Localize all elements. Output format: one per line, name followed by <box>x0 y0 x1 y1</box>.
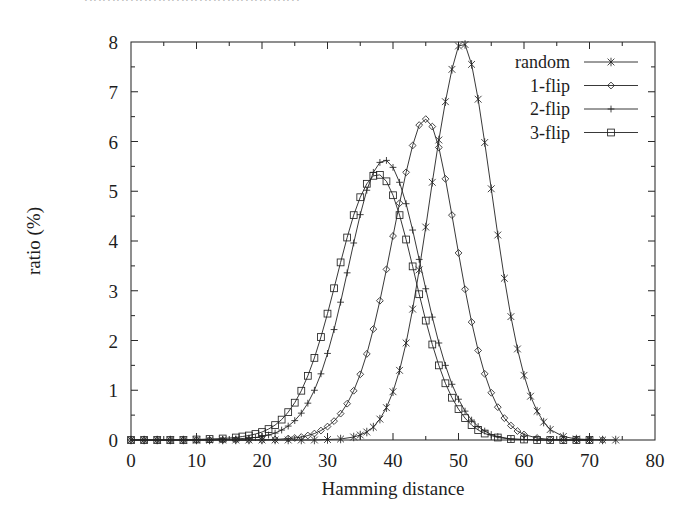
plot-border <box>131 42 655 440</box>
marker-star <box>481 138 488 147</box>
marker-star <box>449 65 456 74</box>
marker-plus <box>442 362 449 369</box>
chart-ticks <box>131 42 655 440</box>
marker-plus <box>357 211 364 218</box>
marker-star <box>422 223 429 232</box>
marker-plus <box>462 408 469 415</box>
x-tick-label: 40 <box>384 450 403 471</box>
series-line-2-flip <box>131 160 590 440</box>
marker-star <box>363 428 370 437</box>
figure-root: ⋅⋅⋅⋅⋅⋅⋅⋅⋅⋅⋅⋅⋅⋅⋅⋅⋅⋅⋅⋅⋅⋅⋅⋅⋅⋅⋅⋅⋅⋅⋅⋅⋅⋅⋅⋅⋅⋅⋅⋅… <box>0 0 673 516</box>
marker-star <box>494 231 501 240</box>
x-tick-label: 70 <box>580 450 599 471</box>
marker-plus <box>409 227 416 234</box>
marker-star <box>403 339 410 348</box>
marker-plus <box>608 106 615 113</box>
chart-legend: random1-flip2-flip3-flip <box>515 52 638 143</box>
marker-star <box>429 178 436 187</box>
marker-star <box>383 403 390 412</box>
marker-plus <box>272 430 279 437</box>
marker-plus <box>435 340 442 347</box>
legend-label-random: random <box>515 52 570 72</box>
legend-label-1-flip: 1-flip <box>530 76 570 96</box>
y-tick-label: 6 <box>109 132 119 153</box>
y-tick-label: 7 <box>109 82 119 103</box>
y-tick-label: 0 <box>109 430 119 451</box>
marker-star <box>468 60 475 68</box>
marker-star <box>377 415 384 424</box>
marker-star <box>488 185 495 194</box>
marker-plus <box>278 427 285 434</box>
x-tick-label: 60 <box>515 450 534 471</box>
chart-svg: 01020304050607080012345678 random1-flip2… <box>0 0 673 516</box>
marker-plus <box>429 314 436 321</box>
y-tick-label: 3 <box>109 281 119 302</box>
y-tick-label: 8 <box>109 32 119 53</box>
marker-star <box>521 371 528 380</box>
x-tick-label: 0 <box>126 450 136 471</box>
marker-plus <box>324 350 331 357</box>
marker-plus <box>344 269 351 276</box>
marker-star <box>357 431 364 440</box>
marker-star <box>527 392 534 401</box>
marker-star <box>370 423 377 432</box>
marker-plus <box>331 326 338 333</box>
marker-plus <box>318 370 325 377</box>
x-tick-label: 50 <box>449 450 468 471</box>
x-tick-label: 10 <box>187 450 206 471</box>
x-tick-label: 30 <box>318 450 337 471</box>
legend-label-2-flip: 2-flip <box>530 99 570 119</box>
series-line-1-flip <box>131 119 603 440</box>
marker-star <box>390 387 397 396</box>
marker-plus <box>403 200 410 207</box>
chart-frame <box>131 42 655 440</box>
marker-plus <box>422 285 429 292</box>
y-tick-label: 4 <box>109 231 119 252</box>
marker-plus <box>337 299 344 306</box>
marker-star <box>514 345 521 354</box>
marker-star <box>455 42 462 51</box>
marker-plus <box>455 396 462 403</box>
x-tick-label: 80 <box>646 450 665 471</box>
marker-star <box>540 418 547 427</box>
chart-plot-area: 01020304050607080012345678 random1-flip2… <box>0 0 673 516</box>
marker-star <box>396 366 403 375</box>
marker-plus <box>311 387 318 394</box>
marker-plus <box>449 381 456 388</box>
marker-star <box>547 425 554 434</box>
y-tick-label: 2 <box>109 331 119 352</box>
marker-plus <box>396 179 403 186</box>
marker-plus <box>377 159 384 166</box>
series-1-flip <box>128 116 606 444</box>
marker-star <box>475 95 482 104</box>
marker-plus <box>304 400 311 407</box>
marker-star <box>462 40 469 49</box>
y-tick-label: 5 <box>109 181 119 202</box>
marker-star <box>501 274 508 283</box>
marker-plus <box>350 240 357 247</box>
series-2-flip <box>128 157 593 443</box>
y-tick-label: 1 <box>109 380 119 401</box>
y-axis-title: ratio (%) <box>23 207 45 275</box>
marker-star <box>442 97 449 106</box>
x-tick-label: 20 <box>253 450 272 471</box>
marker-star <box>534 407 541 416</box>
marker-star <box>409 305 416 314</box>
legend-label-3-flip: 3-flip <box>530 123 570 143</box>
marker-star <box>508 312 515 321</box>
x-axis-title: Hamming distance <box>322 478 465 499</box>
